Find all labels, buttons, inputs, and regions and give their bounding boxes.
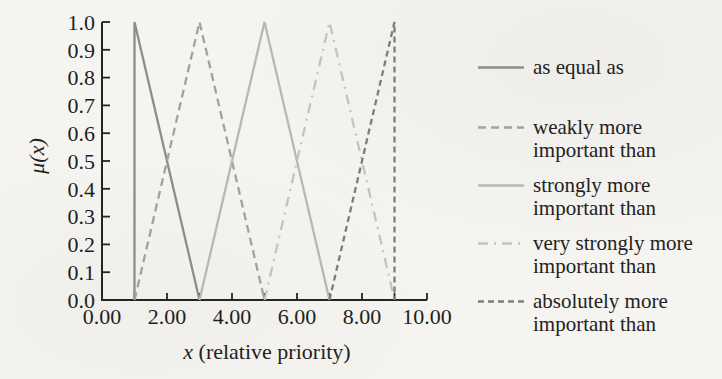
fuzzy-membership-figure: 0.00.10.20.30.40.50.60.70.80.91.00.002.0… xyxy=(0,0,722,379)
legend-item: very strongly moreimportant than xyxy=(478,232,716,278)
y-tick-label: 0.5 xyxy=(68,149,96,174)
x-tick-label: 0.00 xyxy=(83,304,122,329)
x-tick-label: 4.00 xyxy=(213,304,252,329)
y-tick-label: 0.2 xyxy=(68,232,96,257)
legend-line-sample xyxy=(478,232,524,255)
legend-item: strongly moreimportant than xyxy=(478,174,716,220)
x-axis-variable: x xyxy=(183,339,193,364)
y-tick-label: 0.9 xyxy=(68,38,96,63)
x-tick-label: 6.00 xyxy=(278,304,317,329)
legend-label: weakly moreimportant than xyxy=(533,116,656,162)
legend-label: strongly moreimportant than xyxy=(533,174,656,220)
x-axis-title-rest: (relative priority) xyxy=(193,339,351,364)
y-axis-title: μ(x) xyxy=(24,138,50,173)
y-tick-label: 0.3 xyxy=(68,204,96,229)
y-tick-label: 0.4 xyxy=(68,177,96,202)
y-tick-label: 0.6 xyxy=(68,121,96,146)
y-tick-label: 1.0 xyxy=(68,10,96,35)
y-tick-label: 0.7 xyxy=(68,93,96,118)
series-line-very-strongly-more-important-than xyxy=(265,22,395,300)
legend-item: weakly moreimportant than xyxy=(478,116,716,162)
legend-item: as equal as xyxy=(478,56,716,79)
legend-label: absolutely moreimportant than xyxy=(533,290,668,336)
axis-frame xyxy=(102,22,427,300)
x-tick-label: 10.00 xyxy=(402,304,452,329)
legend-label: as equal as xyxy=(533,56,624,79)
series-line-weakly-more-important-than xyxy=(135,22,265,300)
series-line-strongly-more-important-than xyxy=(200,22,330,300)
legend-item: absolutely moreimportant than xyxy=(478,290,716,336)
x-tick-label: 2.00 xyxy=(148,304,187,329)
legend-line-sample xyxy=(478,290,524,313)
y-tick-label: 0.1 xyxy=(68,260,96,285)
legend-line-sample xyxy=(478,116,524,139)
legend-line-sample xyxy=(478,174,524,197)
y-tick-label: 0.8 xyxy=(68,65,96,90)
legend-line-sample xyxy=(478,56,524,79)
chart-canvas: 0.00.10.20.30.40.50.60.70.80.91.00.002.0… xyxy=(0,0,470,379)
legend: as equal asweakly moreimportant thanstro… xyxy=(478,56,716,348)
x-tick-label: 8.00 xyxy=(343,304,382,329)
legend-label: very strongly moreimportant than xyxy=(533,232,693,278)
x-axis-title: x (relative priority) xyxy=(183,339,350,365)
plot-area: 0.00.10.20.30.40.50.60.70.80.91.00.002.0… xyxy=(0,0,470,379)
